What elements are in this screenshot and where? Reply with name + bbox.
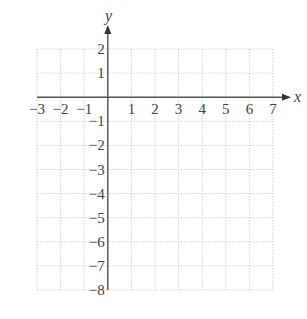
x-tick-label: 6 bbox=[246, 101, 254, 117]
y-tick-label: 2 bbox=[97, 41, 105, 57]
x-tick-label: 5 bbox=[222, 101, 230, 117]
x-tick-label: 1 bbox=[128, 101, 136, 117]
x-tick-label: 4 bbox=[198, 101, 206, 117]
y-tick-label: −2 bbox=[89, 137, 105, 153]
x-tick-label: −2 bbox=[53, 101, 69, 117]
coordinate-plane: −3−2−11234567 21−1−2−3−4−5−6−7−8 x y bbox=[0, 0, 307, 319]
x-axis-arrow-icon bbox=[282, 94, 291, 101]
x-axis-label: x bbox=[293, 88, 301, 105]
y-tick-label: −7 bbox=[89, 258, 105, 274]
x-tick-label: 3 bbox=[175, 101, 183, 117]
y-tick-label: −5 bbox=[89, 210, 105, 226]
y-tick-labels: 21−1−2−3−4−5−6−7−8 bbox=[89, 41, 105, 298]
y-tick-label: −6 bbox=[89, 234, 105, 250]
x-tick-labels: −3−2−11234567 bbox=[29, 101, 277, 117]
axes bbox=[37, 25, 291, 290]
y-tick-label: −1 bbox=[89, 113, 105, 129]
y-tick-label: −4 bbox=[89, 186, 105, 202]
y-tick-label: −8 bbox=[89, 282, 105, 298]
x-tick-label: 7 bbox=[269, 101, 277, 117]
y-axis-label: y bbox=[103, 7, 113, 25]
y-axis-arrow-icon bbox=[104, 25, 111, 34]
grid bbox=[37, 49, 273, 290]
x-tick-label: 2 bbox=[151, 101, 159, 117]
y-tick-label: −3 bbox=[89, 162, 105, 178]
x-tick-label: −3 bbox=[29, 101, 45, 117]
y-tick-label: 1 bbox=[97, 65, 105, 81]
